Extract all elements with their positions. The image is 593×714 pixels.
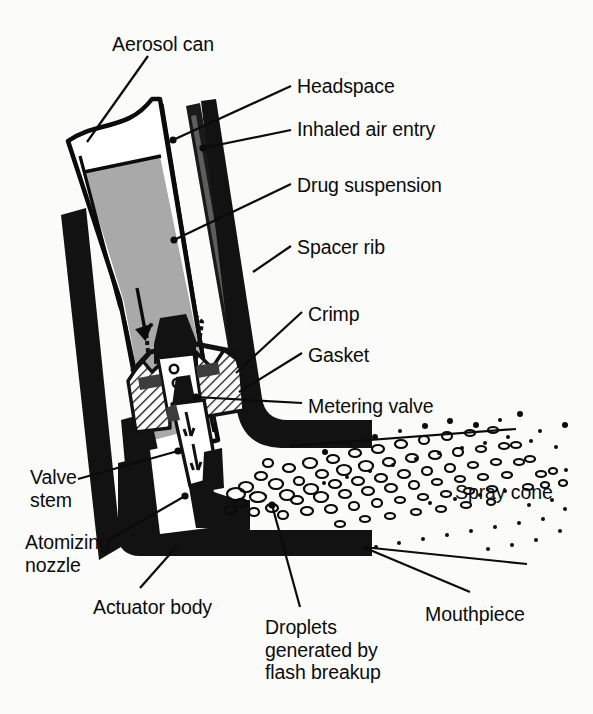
leader-droplets-anchor-dot bbox=[268, 501, 275, 508]
droplet-dot bbox=[437, 451, 441, 455]
droplet-dot bbox=[563, 507, 567, 511]
diagram-canvas: Aerosol canHeadspaceInhaled air entryDru… bbox=[0, 0, 593, 714]
valve-stem-tip bbox=[202, 448, 224, 492]
droplet-dot bbox=[493, 525, 497, 529]
droplet-dot bbox=[510, 543, 514, 547]
label-inhaled-air-entry: Inhaled air entry bbox=[297, 118, 435, 141]
droplet-dot bbox=[414, 457, 418, 461]
droplet-dot bbox=[368, 469, 372, 473]
droplet-dot bbox=[506, 435, 510, 439]
droplet-dot bbox=[534, 538, 538, 542]
droplet-dot bbox=[486, 547, 490, 551]
droplet-dot bbox=[538, 429, 542, 433]
label-atomizing-nozzle: Atomizing nozzle bbox=[25, 531, 110, 576]
droplet-dot bbox=[391, 463, 395, 467]
leader-inhaled-air-anchor-dot bbox=[199, 144, 206, 151]
droplet-dot bbox=[562, 422, 568, 428]
leader-headspace-anchor-dot bbox=[169, 136, 176, 143]
droplet-dot bbox=[421, 537, 425, 541]
droplet-dot bbox=[473, 422, 479, 428]
droplet-dot bbox=[422, 423, 428, 429]
droplet-dot bbox=[529, 439, 533, 443]
label-droplets-flash: Droplets generated by flash breakup bbox=[265, 616, 381, 684]
droplet-dot bbox=[447, 418, 453, 424]
label-actuator-body: Actuator body bbox=[93, 596, 212, 619]
droplet-dot bbox=[445, 533, 449, 537]
label-crimp: Crimp bbox=[308, 303, 360, 326]
label-spacer-rib: Spacer rib bbox=[297, 236, 385, 259]
droplet-dot bbox=[469, 529, 473, 533]
label-spray-cone: Spray cone bbox=[455, 481, 553, 504]
label-aerosol-can: Aerosol can bbox=[112, 33, 214, 56]
droplet-dot bbox=[517, 411, 523, 417]
droplet-dot bbox=[483, 441, 487, 445]
droplet-dot bbox=[554, 445, 558, 449]
label-valve-stem: Valve stem bbox=[30, 466, 77, 511]
droplet-dot bbox=[517, 521, 521, 525]
droplet-dot bbox=[564, 468, 568, 472]
leader-atomizing-nozzle-anchor-dot bbox=[181, 492, 188, 499]
droplet-dot bbox=[460, 446, 464, 450]
droplet-dot bbox=[322, 481, 326, 485]
droplet-dot bbox=[398, 429, 402, 433]
droplet-dot bbox=[345, 475, 349, 479]
droplet-dot bbox=[498, 418, 502, 422]
label-mouthpiece: Mouthpiece bbox=[425, 603, 525, 626]
droplet-dot bbox=[322, 449, 328, 455]
droplet-dot bbox=[558, 529, 562, 533]
leader-valve-stem-anchor-dot bbox=[174, 447, 181, 454]
leader-drug-suspension-anchor-dot bbox=[170, 236, 177, 243]
label-gasket: Gasket bbox=[308, 344, 369, 367]
label-metering-valve: Metering valve bbox=[308, 395, 433, 418]
label-drug-suspension: Drug suspension bbox=[297, 174, 442, 197]
droplet-dot bbox=[527, 503, 531, 507]
droplet-dot bbox=[541, 517, 545, 521]
droplet-dot bbox=[397, 541, 401, 545]
droplet-dot bbox=[428, 501, 432, 505]
label-headspace: Headspace bbox=[297, 75, 395, 98]
leader-metering-valve-anchor-dot bbox=[192, 393, 199, 400]
